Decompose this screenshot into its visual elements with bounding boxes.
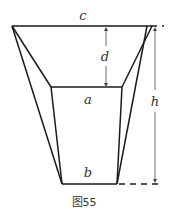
corner-dot xyxy=(162,25,164,27)
label-h: h xyxy=(151,94,159,109)
figure-caption: 图55 xyxy=(72,196,97,209)
label-d: d xyxy=(101,49,109,64)
label-a: a xyxy=(84,92,92,107)
left-slant-upper xyxy=(12,26,51,87)
left-inner-side xyxy=(51,87,62,184)
left-outer-side xyxy=(12,26,62,184)
label-c: c xyxy=(79,8,87,23)
frustum-diagram: c d a h b 图55 xyxy=(0,0,178,216)
label-b: b xyxy=(84,165,92,180)
